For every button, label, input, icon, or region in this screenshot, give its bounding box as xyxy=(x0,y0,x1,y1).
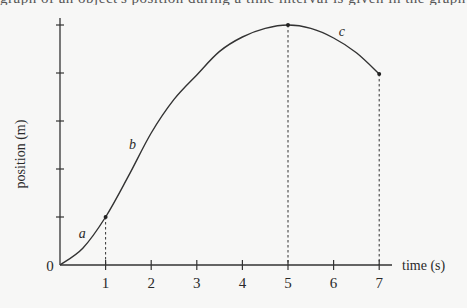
dashed-drop-lines xyxy=(106,25,380,265)
y-axis-label: position (m) xyxy=(13,119,29,188)
segment-label-b: b xyxy=(129,137,136,152)
x-tick-label: 4 xyxy=(239,275,247,291)
x-tick-label: 1 xyxy=(102,275,110,291)
x-tick-label: 7 xyxy=(375,275,383,291)
x-tick-label: 5 xyxy=(284,275,292,291)
segment-label-a: a xyxy=(79,226,86,241)
marked-point xyxy=(286,23,290,27)
marked-points xyxy=(104,23,382,219)
segment-label-c: c xyxy=(339,24,346,39)
segment-labels: abc xyxy=(79,24,346,241)
marked-point xyxy=(104,215,108,219)
x-tick-label: 6 xyxy=(330,275,338,291)
marked-point xyxy=(377,72,381,76)
axes xyxy=(56,18,392,270)
position-curve xyxy=(60,25,379,265)
origin-label: 0 xyxy=(46,258,54,274)
x-tick-label: 2 xyxy=(147,275,155,291)
x-tick-labels: 1234567 xyxy=(102,275,384,291)
axis-labels: time (s) position (m) 0 xyxy=(13,119,445,274)
x-axis-label: time (s) xyxy=(402,258,445,274)
x-tick-label: 3 xyxy=(193,275,201,291)
position-time-chart: time (s) position (m) 0 1234567 abc xyxy=(0,0,467,308)
